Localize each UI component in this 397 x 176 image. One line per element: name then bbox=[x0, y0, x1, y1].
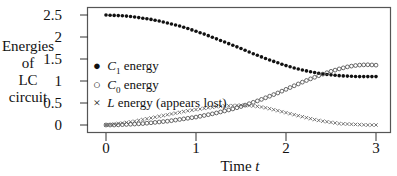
filled-circle-icon: ● bbox=[90, 59, 104, 73]
x-axis-label: Time t bbox=[200, 158, 280, 174]
y-tick-label: 2.5 bbox=[30, 8, 62, 23]
legend-var: L bbox=[107, 95, 114, 110]
cross-icon: × bbox=[90, 96, 104, 110]
y-tick-label: 0.5 bbox=[30, 96, 62, 111]
y-tick-label: 1.5 bbox=[30, 52, 62, 67]
legend-var: C bbox=[107, 77, 116, 92]
legend: ● C1 energy ○ C0 energy × L energy (appe… bbox=[90, 59, 227, 110]
legend-sub: 1 bbox=[116, 66, 121, 76]
x-tick-label: 2 bbox=[276, 141, 296, 156]
legend-var: C bbox=[107, 58, 116, 73]
y-tick-label: 2 bbox=[30, 30, 62, 45]
legend-text: energy bbox=[124, 77, 159, 92]
open-circle-icon: ○ bbox=[90, 78, 104, 92]
legend-sub: 0 bbox=[116, 84, 121, 94]
x-label-text: Time bbox=[220, 158, 251, 174]
x-label-var: t bbox=[255, 158, 259, 174]
y-tick-label: 0 bbox=[30, 118, 62, 133]
y-tick-label: 1 bbox=[30, 74, 62, 89]
legend-item-c0: ○ C0 energy bbox=[90, 78, 227, 97]
legend-item-c1: ● C1 energy bbox=[90, 59, 227, 78]
legend-text: energy bbox=[124, 58, 159, 73]
legend-text: energy (appears lost) bbox=[118, 95, 227, 110]
legend-item-l: × L energy (appears lost) bbox=[90, 96, 227, 110]
x-tick-label: 0 bbox=[96, 141, 116, 156]
x-tick-label: 1 bbox=[186, 141, 206, 156]
x-tick-label: 3 bbox=[366, 141, 386, 156]
